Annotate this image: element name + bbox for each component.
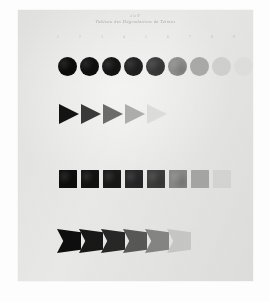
swatch-triangles-4 xyxy=(125,104,145,124)
swatch-circles-2 xyxy=(80,57,99,76)
paper-sheet: à la N° Tableau des Dégradations de Tein… xyxy=(18,10,253,281)
column-number-5: 5 xyxy=(141,34,151,40)
swatch-triangles-2 xyxy=(81,104,101,124)
column-number-row: 123456789 xyxy=(36,34,236,42)
swatch-fill xyxy=(167,229,191,253)
swatch-fill xyxy=(57,229,81,253)
swatch-circles-4 xyxy=(124,57,143,76)
swatch-fill xyxy=(123,229,147,253)
swatch-circles-5 xyxy=(146,57,165,76)
swatch-squares-2 xyxy=(81,170,99,188)
swatch-triangles-3 xyxy=(103,104,123,124)
swatch-dee-fans-1 xyxy=(57,229,81,253)
column-number-8: 8 xyxy=(207,34,217,40)
swatch-fill xyxy=(125,104,145,124)
swatch-squares-4 xyxy=(125,170,143,188)
swatch-fill xyxy=(189,229,213,253)
swatch-squares-1 xyxy=(59,170,77,188)
swatch-fill xyxy=(79,229,103,253)
swatch-squares-5 xyxy=(147,170,165,188)
swatch-triangles-5 xyxy=(147,104,167,124)
column-number-6: 6 xyxy=(163,34,173,40)
column-number-7: 7 xyxy=(185,34,195,40)
swatch-dee-fans-4 xyxy=(123,229,147,253)
swatch-dee-fans-6 xyxy=(167,229,191,253)
column-number-9: 9 xyxy=(229,34,239,40)
swatch-dee-fans-3 xyxy=(101,229,125,253)
column-number-4: 4 xyxy=(119,34,129,40)
column-number-2: 2 xyxy=(75,34,85,40)
swatch-circles-7 xyxy=(190,57,209,76)
swatch-fill xyxy=(145,229,169,253)
caption-title: Tableau des Dégradations de Teintes xyxy=(18,19,253,25)
swatch-circles-3 xyxy=(102,57,121,76)
swatch-circles-9 xyxy=(234,57,253,76)
swatch-fill xyxy=(81,104,101,124)
swatch-fill xyxy=(101,229,125,253)
swatch-dee-fans-2 xyxy=(79,229,103,253)
column-number-1: 1 xyxy=(53,34,63,40)
swatch-circles-6 xyxy=(168,57,187,76)
swatch-squares-7 xyxy=(191,170,209,188)
plate-viewport: à la N° Tableau des Dégradations de Tein… xyxy=(0,0,269,302)
swatch-squares-6 xyxy=(169,170,187,188)
swatch-fill xyxy=(59,104,79,124)
swatch-fill xyxy=(103,104,123,124)
caption-block: à la N° Tableau des Dégradations de Tein… xyxy=(18,15,253,25)
swatch-fill xyxy=(147,104,167,124)
swatch-dee-fans-5 xyxy=(145,229,169,253)
swatch-squares-8 xyxy=(213,170,231,188)
swatch-circles-1 xyxy=(58,57,77,76)
column-number-3: 3 xyxy=(97,34,107,40)
swatch-dee-fans-7 xyxy=(189,229,213,253)
swatch-squares-3 xyxy=(103,170,121,188)
swatch-triangles-1 xyxy=(59,104,79,124)
swatch-circles-8 xyxy=(212,57,231,76)
